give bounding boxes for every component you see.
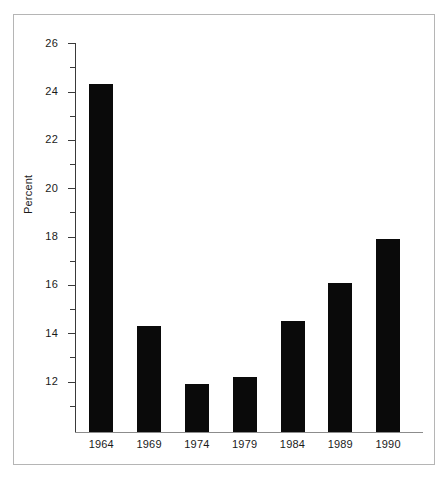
x-axis-line (75, 432, 423, 433)
x-tick-label-1984: 1984 (266, 438, 320, 450)
x-tick-label-1964: 1964 (74, 438, 128, 450)
y-minor-tick-17 (70, 261, 76, 262)
bar-1974 (185, 384, 209, 432)
y-tick-label-22: 22 (18, 134, 58, 145)
y-minor-tick-19 (70, 212, 76, 213)
y-tick-label-24: 24 (18, 86, 58, 97)
y-minor-tick-25 (70, 67, 76, 68)
y-tick-label-18: 18 (18, 231, 58, 242)
y-minor-tick-21 (70, 164, 76, 165)
y-minor-tick-11 (70, 406, 76, 407)
x-tick-label-1979: 1979 (218, 438, 272, 450)
y-axis-title: Percent (22, 175, 34, 214)
x-tick-label-1974: 1974 (170, 438, 224, 450)
bar-chart-plot: Percent 2624222018161412 196419691974197… (0, 0, 447, 481)
y-tick-18 (68, 237, 76, 238)
y-tick-14 (68, 333, 76, 334)
bar-1964 (89, 84, 113, 432)
bar-1989 (328, 283, 352, 432)
bar-1969 (137, 326, 161, 432)
bar-1990 (376, 239, 400, 432)
y-tick-label-20: 20 (18, 183, 58, 194)
y-tick-label-26: 26 (18, 38, 58, 49)
y-tick-16 (68, 285, 76, 286)
x-tick-label-1969: 1969 (122, 438, 176, 450)
y-tick-20 (68, 188, 76, 189)
y-tick-label-14: 14 (18, 328, 58, 339)
bar-1984 (281, 321, 305, 432)
y-tick-22 (68, 140, 76, 141)
y-minor-tick-23 (70, 116, 76, 117)
figure: Percent 2624222018161412 196419691974197… (0, 0, 447, 481)
x-tick-label-1990: 1990 (361, 438, 415, 450)
y-tick-24 (68, 92, 76, 93)
y-tick-26 (68, 43, 76, 44)
y-tick-label-12: 12 (18, 376, 58, 387)
y-tick-12 (68, 382, 76, 383)
bar-1979 (233, 377, 257, 432)
x-tick-label-1989: 1989 (313, 438, 367, 450)
y-minor-tick-15 (70, 309, 76, 310)
y-minor-tick-13 (70, 357, 76, 358)
y-tick-label-16: 16 (18, 279, 58, 290)
